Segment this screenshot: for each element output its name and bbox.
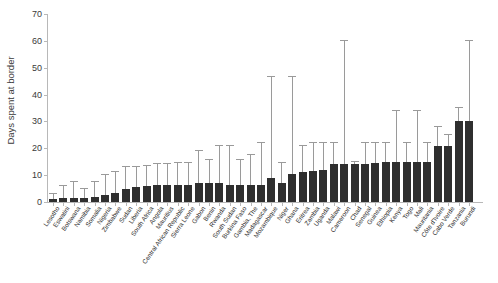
bar[interactable] <box>267 178 275 202</box>
bar-group[interactable] <box>464 14 474 202</box>
error-bar-cap <box>153 163 161 164</box>
bar-group[interactable] <box>443 14 453 202</box>
bar-group[interactable] <box>100 14 110 202</box>
bar[interactable] <box>195 183 203 202</box>
bar[interactable] <box>49 199 57 202</box>
bar[interactable] <box>361 164 369 202</box>
bar[interactable] <box>351 164 359 202</box>
error-bar-line <box>437 127 438 146</box>
bar[interactable] <box>143 186 151 202</box>
error-bar-line <box>323 143 324 170</box>
bar[interactable] <box>215 183 223 202</box>
bar[interactable] <box>278 183 286 202</box>
error-bar-line <box>146 166 147 186</box>
bar[interactable] <box>455 121 463 202</box>
bar-group[interactable] <box>79 14 89 202</box>
bar-group[interactable] <box>391 14 401 202</box>
bar-group[interactable] <box>183 14 193 202</box>
bar[interactable] <box>80 198 88 202</box>
bar[interactable] <box>101 195 109 202</box>
bar-group[interactable] <box>298 14 308 202</box>
error-bar-cap <box>319 142 327 143</box>
bar[interactable] <box>163 185 171 202</box>
bar[interactable] <box>132 187 140 202</box>
bar-group[interactable] <box>266 14 276 202</box>
bar-group[interactable] <box>69 14 79 202</box>
bar-group[interactable] <box>454 14 464 202</box>
bar-group[interactable] <box>422 14 432 202</box>
bar[interactable] <box>257 185 265 202</box>
bar-group[interactable] <box>194 14 204 202</box>
plot-area <box>48 14 482 202</box>
bar[interactable] <box>59 198 67 202</box>
bar-group[interactable] <box>131 14 141 202</box>
error-bar-cap <box>299 145 307 146</box>
bar-group[interactable] <box>90 14 100 202</box>
bar-group[interactable] <box>162 14 172 202</box>
bar[interactable] <box>423 162 431 202</box>
bar-group[interactable] <box>339 14 349 202</box>
bar-group[interactable] <box>412 14 422 202</box>
error-bar-cap <box>80 188 88 189</box>
bar[interactable] <box>226 185 234 202</box>
bar[interactable] <box>236 185 244 202</box>
bar[interactable] <box>319 170 327 202</box>
bar[interactable] <box>392 162 400 202</box>
bar-group[interactable] <box>204 14 214 202</box>
bar-group[interactable] <box>318 14 328 202</box>
bar-group[interactable] <box>350 14 360 202</box>
bar[interactable] <box>184 185 192 202</box>
bar-group[interactable] <box>214 14 224 202</box>
bar[interactable] <box>70 198 78 202</box>
error-bar-cap <box>49 193 57 194</box>
bar[interactable] <box>247 185 255 202</box>
bar-group[interactable] <box>287 14 297 202</box>
bar-group[interactable] <box>381 14 391 202</box>
error-bar-line <box>157 164 158 184</box>
bar-group[interactable] <box>246 14 256 202</box>
bar[interactable] <box>153 185 161 202</box>
y-axis-tick-label: 60 <box>32 36 42 46</box>
bar[interactable] <box>299 172 307 202</box>
bar[interactable] <box>205 183 213 202</box>
bar-group[interactable] <box>329 14 339 202</box>
bar-group[interactable] <box>308 14 318 202</box>
bar-group[interactable] <box>235 14 245 202</box>
bar[interactable] <box>91 197 99 202</box>
bar[interactable] <box>444 146 452 202</box>
error-bar-line <box>125 167 126 188</box>
y-axis-tick-label: 30 <box>32 116 42 126</box>
bar-group[interactable] <box>225 14 235 202</box>
bar-group[interactable] <box>256 14 266 202</box>
bar[interactable] <box>111 193 119 202</box>
bar[interactable] <box>340 164 348 202</box>
error-bar-cap <box>465 40 473 41</box>
error-bar-line <box>313 143 314 171</box>
bar[interactable] <box>413 162 421 202</box>
bar[interactable] <box>403 162 411 202</box>
bar-group[interactable] <box>433 14 443 202</box>
bar-group[interactable] <box>360 14 370 202</box>
error-bar-line <box>198 151 199 183</box>
error-bar-cap <box>111 171 119 172</box>
bar-group[interactable] <box>402 14 412 202</box>
bar[interactable] <box>309 171 317 202</box>
bar-group[interactable] <box>110 14 120 202</box>
bar[interactable] <box>434 146 442 202</box>
bar-group[interactable] <box>173 14 183 202</box>
bar-group[interactable] <box>370 14 380 202</box>
bar-group[interactable] <box>142 14 152 202</box>
bar[interactable] <box>288 174 296 202</box>
bar[interactable] <box>465 121 473 202</box>
bar[interactable] <box>371 163 379 202</box>
bar-group[interactable] <box>277 14 287 202</box>
bar[interactable] <box>122 189 130 202</box>
error-bar-cap <box>257 142 265 143</box>
bar[interactable] <box>174 185 182 202</box>
bar-group[interactable] <box>48 14 58 202</box>
bar[interactable] <box>330 164 338 202</box>
bar-group[interactable] <box>121 14 131 202</box>
bar-group[interactable] <box>58 14 68 202</box>
bar-group[interactable] <box>152 14 162 202</box>
bar[interactable] <box>382 162 390 202</box>
